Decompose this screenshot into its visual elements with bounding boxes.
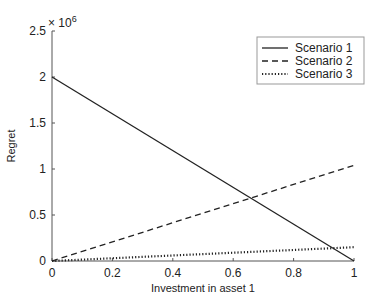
y-tick-label: 2.5 [29, 24, 46, 38]
x-axis: 00.20.40.60.81 Investment in asset 1 [49, 258, 358, 294]
x-tick-label: 0.4 [164, 266, 181, 280]
x-axis-label: Investment in asset 1 [151, 282, 255, 294]
legend-label: Scenario 1 [295, 41, 353, 55]
x-tick-label: 0.2 [104, 266, 121, 280]
series-scenario-3 [52, 247, 354, 261]
legend: Scenario 1Scenario 2Scenario 3 [257, 37, 364, 84]
y-tick-label: 2 [39, 70, 46, 84]
y-axis: 00.511.522.5 × 106 Regret [5, 14, 77, 268]
y-tick-label: 0 [39, 254, 46, 268]
x-tick-label: 0 [49, 266, 56, 280]
legend-label: Scenario 3 [295, 67, 353, 81]
series-scenario-1 [52, 77, 354, 261]
y-multiplier: × 106 [48, 14, 77, 30]
x-tick-label: 0.8 [285, 266, 302, 280]
y-tick-label: 1.5 [29, 116, 46, 130]
y-axis-label: Regret [5, 129, 17, 162]
regret-chart: 00.511.522.5 × 106 Regret 00.20.40.60.81… [0, 0, 372, 299]
x-tick-label: 0.6 [225, 266, 242, 280]
y-tick-label: 0.5 [29, 208, 46, 222]
x-tick-label: 1 [351, 266, 358, 280]
y-tick-label: 1 [39, 162, 46, 176]
legend-label: Scenario 2 [295, 54, 353, 68]
plot-series [52, 77, 354, 261]
series-scenario-2 [52, 165, 354, 261]
